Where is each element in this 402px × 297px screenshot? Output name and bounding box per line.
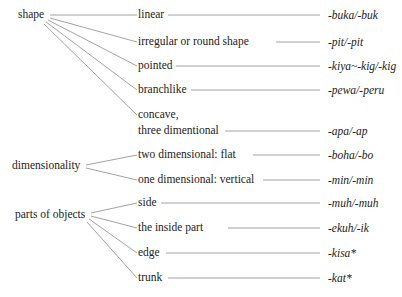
suffix-pit: -pit/-pit [328, 36, 363, 49]
feature-one-dimensional-vertical: one dimensional: vertical [138, 173, 254, 186]
feature-concave-line1: concave, [138, 108, 179, 121]
suffix-muh: -muh/-muh [328, 197, 378, 210]
feature-side: side [138, 196, 157, 209]
feature-concave-line2: three dimentional [138, 124, 219, 137]
suffix-ekuh: -ekuh/-ik [328, 222, 369, 235]
category-parts-of-objects: parts of objects [15, 208, 85, 221]
suffix-boha: -boha/-bo [328, 149, 373, 162]
suffix-min: -min/-min [328, 174, 373, 187]
suffix-buka: -buka/-buk [328, 9, 378, 22]
category-shape: shape [18, 8, 44, 21]
classifier-tree-diagram: shape dimensionality parts of objects li… [0, 0, 402, 297]
suffix-kiya: -kiya~-kig/-kig [328, 60, 396, 73]
feature-irregular-round: irregular or round shape [138, 35, 249, 48]
category-dimensionality: dimensionality [12, 159, 80, 172]
suffix-apa: -apa/-ap [328, 125, 368, 138]
feature-branchlike: branchlike [138, 83, 187, 96]
feature-two-dimensional-flat: two dimensional: flat [138, 148, 236, 161]
suffix-pewa: -pewa/-peru [328, 84, 384, 97]
feature-edge: edge [138, 246, 160, 259]
feature-inside-part: the inside part [138, 221, 203, 234]
suffix-kisa: -kisa* [328, 247, 356, 260]
suffix-kat: -kat* [328, 272, 352, 285]
feature-linear: linear [138, 8, 164, 21]
feature-trunk: trunk [138, 271, 162, 284]
feature-pointed: pointed [138, 59, 173, 72]
